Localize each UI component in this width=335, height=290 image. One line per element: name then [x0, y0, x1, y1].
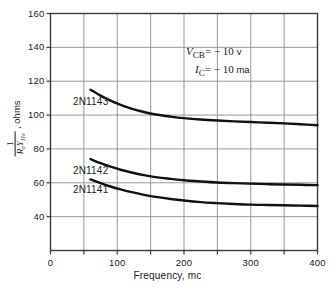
- fraction-numerator: 1: [6, 139, 15, 148]
- y-tick-label: 140: [21, 41, 45, 52]
- y-axis-title: 1 ReY11e , ohms: [6, 78, 27, 178]
- y-tick-label: 60: [21, 177, 45, 188]
- curve-2n1143: [91, 90, 318, 126]
- chart-figure: 160140120100806040 0100200300400 Frequen…: [0, 0, 335, 290]
- y-axis-fraction: 1 ReY11e: [6, 131, 27, 156]
- y-tick-label: 160: [21, 8, 45, 19]
- conditions-annotation: VCB= − 10 v IC= − 10 ma: [186, 44, 250, 79]
- fraction-denominator: ReY11e: [16, 131, 27, 156]
- x-axis-title: Frequency, mc: [0, 270, 335, 281]
- ic-value: = − 10: [205, 63, 234, 75]
- x-tick-label: 0: [36, 257, 66, 268]
- curve-label-2n1142: 2N1142: [73, 165, 109, 176]
- vcb-symbol: V: [186, 45, 193, 57]
- x-tick-label: 400: [303, 257, 333, 268]
- denominator-R: R: [15, 149, 25, 155]
- vcb-value: = − 10: [205, 45, 234, 57]
- data-curves: [91, 90, 318, 206]
- curve-2n1142: [91, 159, 318, 185]
- annotation-line-vcb: VCB= − 10 v: [186, 44, 250, 62]
- y-tick-label: 40: [21, 211, 45, 222]
- x-tick-label: 100: [102, 257, 132, 268]
- x-tick-label: 300: [236, 257, 266, 268]
- denominator-Y: Y: [15, 141, 25, 146]
- curve-label-2n1141: 2N1141: [73, 184, 109, 195]
- vertical-gridlines: [84, 14, 284, 251]
- ic-unit: ma: [236, 64, 249, 75]
- curve-label-2n1143: 2N1143: [73, 96, 109, 107]
- denominator-Y-sub: 11e: [20, 133, 26, 141]
- denominator-R-sub: e: [20, 146, 26, 149]
- vcb-unit: v: [237, 46, 242, 57]
- vcb-subscript: CB: [193, 50, 205, 60]
- annotation-line-ic: IC= − 10 ma: [186, 62, 250, 80]
- plot-area-svg: [0, 0, 335, 290]
- x-tick-label: 200: [169, 257, 199, 268]
- y-axis-units: , ohms: [10, 100, 21, 129]
